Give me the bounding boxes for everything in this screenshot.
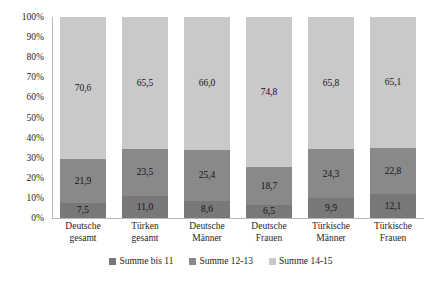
bar-segment-value: 65,1 <box>385 77 402 87</box>
category-label-line: gesamt <box>115 233 175 245</box>
category-label-line: gesamt <box>53 233 113 245</box>
chart-legend: Summe bis 11Summe 12-13Summe 14-15 <box>0 256 442 266</box>
y-axis-tick-label: 50% <box>27 113 44 123</box>
x-axis-category-label: Deutschegesamt <box>53 221 113 253</box>
legend-label: Summe 12-13 <box>199 256 253 266</box>
bar-segment[interactable]: 21,9 <box>60 159 106 203</box>
bar-column[interactable]: 66,025,48,6 <box>184 17 230 218</box>
bar-segment[interactable]: 22,8 <box>370 148 416 194</box>
bar-segment-value: 22,8 <box>385 166 402 176</box>
bar-segment[interactable]: 11,0 <box>122 196 168 218</box>
category-label-line: Deutsche <box>239 221 299 233</box>
x-axis-category-label: Türkengesamt <box>115 221 175 253</box>
bar-segment-value: 18,7 <box>261 181 278 191</box>
y-axis-tick-label: 100% <box>22 12 44 22</box>
x-axis-category-label: DeutscheMänner <box>177 221 237 253</box>
bar-segment[interactable]: 12,1 <box>370 194 416 218</box>
bar-segment[interactable]: 65,1 <box>370 17 416 148</box>
bar-segment-value: 66,0 <box>199 78 216 88</box>
category-label-line: Frauen <box>239 233 299 245</box>
category-label-line: Deutsche <box>53 221 113 233</box>
category-label-line: Türkische <box>301 221 361 233</box>
y-axis-tick-label: 80% <box>27 52 44 62</box>
x-axis-line <box>52 218 424 219</box>
plot-area: 70,621,97,565,523,511,066,025,48,674,818… <box>52 17 424 218</box>
bar-group: 70,621,97,565,523,511,066,025,48,674,818… <box>52 17 424 218</box>
bar-segment[interactable]: 74,8 <box>246 17 292 167</box>
legend-item[interactable]: Summe bis 11 <box>109 256 173 266</box>
legend-label: Summe bis 11 <box>119 256 173 266</box>
y-axis-tick-label: 20% <box>27 173 44 183</box>
bar-segment-value: 8,6 <box>201 204 213 214</box>
y-axis-tick-label: 60% <box>27 92 44 102</box>
y-axis-tick-label: 40% <box>27 133 44 143</box>
legend-swatch-icon <box>269 258 276 265</box>
bar-column[interactable]: 65,523,511,0 <box>122 17 168 218</box>
bar-segment[interactable]: 7,5 <box>60 203 106 218</box>
legend-label: Summe 14-15 <box>279 256 333 266</box>
category-label-line: Männer <box>301 233 361 245</box>
bar-segment[interactable]: 70,6 <box>60 17 106 159</box>
bar-segment-value: 74,8 <box>261 87 278 97</box>
legend-item[interactable]: Summe 14-15 <box>269 256 333 266</box>
bar-segment-value: 65,5 <box>137 78 154 88</box>
bar-segment-value: 9,9 <box>325 203 337 213</box>
bar-segment-value: 6,5 <box>263 206 275 216</box>
bar-segment-value: 24,3 <box>323 169 340 179</box>
category-label-line: Männer <box>177 233 237 245</box>
legend-item[interactable]: Summe 12-13 <box>189 256 253 266</box>
bar-column[interactable]: 70,621,97,5 <box>60 17 106 218</box>
y-axis-tick-label: 90% <box>27 32 44 42</box>
bar-segment-value: 21,9 <box>75 176 92 186</box>
bar-segment-value: 65,8 <box>323 78 340 88</box>
y-axis-tick-label: 30% <box>27 153 44 163</box>
bar-segment[interactable]: 23,5 <box>122 149 168 196</box>
bar-segment[interactable]: 18,7 <box>246 167 292 205</box>
bar-segment-value: 25,4 <box>199 170 216 180</box>
category-label-line: Deutsche <box>177 221 237 233</box>
category-label-line: Türkische <box>363 221 423 233</box>
bar-segment[interactable]: 8,6 <box>184 201 230 218</box>
category-label-line: Frauen <box>363 233 423 245</box>
y-axis-tick-label: 10% <box>27 193 44 203</box>
bar-column[interactable]: 65,122,812,1 <box>370 17 416 218</box>
x-axis-category-label: DeutscheFrauen <box>239 221 299 253</box>
bar-segment[interactable]: 25,4 <box>184 150 230 201</box>
y-axis-tick-label: 70% <box>27 72 44 82</box>
legend-swatch-icon <box>189 258 196 265</box>
bar-segment-value: 23,5 <box>137 167 154 177</box>
category-label-line: Türken <box>115 221 175 233</box>
bar-segment[interactable]: 24,3 <box>308 149 354 198</box>
bar-segment[interactable]: 66,0 <box>184 17 230 150</box>
y-axis-labels: 100%90%80%70%60%50%40%30%20%10%0% <box>0 17 48 218</box>
x-axis-category-label: TürkischeMänner <box>301 221 361 253</box>
y-axis-tick-label: 0% <box>31 213 44 223</box>
legend-swatch-icon <box>109 258 116 265</box>
bar-column[interactable]: 65,824,39,9 <box>308 17 354 218</box>
stacked-bar-chart: 100%90%80%70%60%50%40%30%20%10%0% 70,621… <box>0 0 442 281</box>
x-axis-category-label: TürkischeFrauen <box>363 221 423 253</box>
bar-segment[interactable]: 65,8 <box>308 17 354 149</box>
bar-segment[interactable]: 9,9 <box>308 198 354 218</box>
bar-segment-value: 11,0 <box>137 202 153 212</box>
bar-segment-value: 12,1 <box>385 201 402 211</box>
bar-column[interactable]: 74,818,76,5 <box>246 17 292 218</box>
x-axis-category-labels: DeutschegesamtTürkengesamtDeutscheMänner… <box>52 221 424 253</box>
bar-segment[interactable]: 65,5 <box>122 17 168 149</box>
bar-segment[interactable]: 6,5 <box>246 205 292 218</box>
bar-segment-value: 70,6 <box>75 83 92 93</box>
bar-segment-value: 7,5 <box>77 205 89 215</box>
